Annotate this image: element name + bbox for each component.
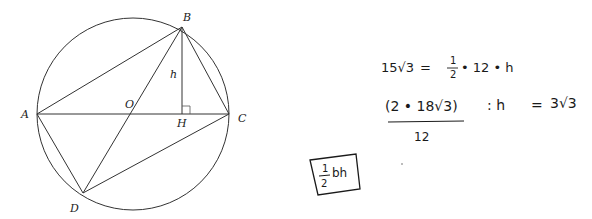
note-line2-frac-bar [388,121,464,122]
note-line2-numerator: (2 • 18√3) [385,98,458,114]
label-h: h [170,68,177,81]
segment-CD [83,114,229,193]
note-line2-mid: : h [487,97,505,113]
segment-BC [182,27,229,114]
label-D: D [69,202,79,215]
note-line2-denominator: 12 [414,130,429,144]
segment-AB [37,27,182,114]
note-line1-left: 15√3 [381,60,414,75]
label-O: O [125,98,134,111]
segment-DA [37,114,83,193]
label-B: B [182,11,191,24]
note-line1-frac-den: 2 [450,69,456,80]
boxed-frac-den: 2 [321,178,327,189]
note-line1-eq: = [420,60,431,75]
note-line1-frac-num: 1 [450,55,456,66]
label-H: H [176,117,187,130]
boxed-frac-num: 1 [322,163,328,174]
stray-mark [401,163,403,165]
note-line2-eq: = [531,97,543,113]
note-line2-result: 3√3 [550,95,577,111]
geometry-figure: A B C D O H h 15√3 = 1 2 • 12 • h (2 • 1… [0,0,592,219]
label-C: C [238,112,247,125]
boxed-rest: bh [332,166,347,180]
label-A: A [20,108,29,121]
note-line1-rest: • 12 • h [461,60,514,75]
right-angle-marker [182,106,190,114]
boxed-frac-bar [319,175,330,176]
